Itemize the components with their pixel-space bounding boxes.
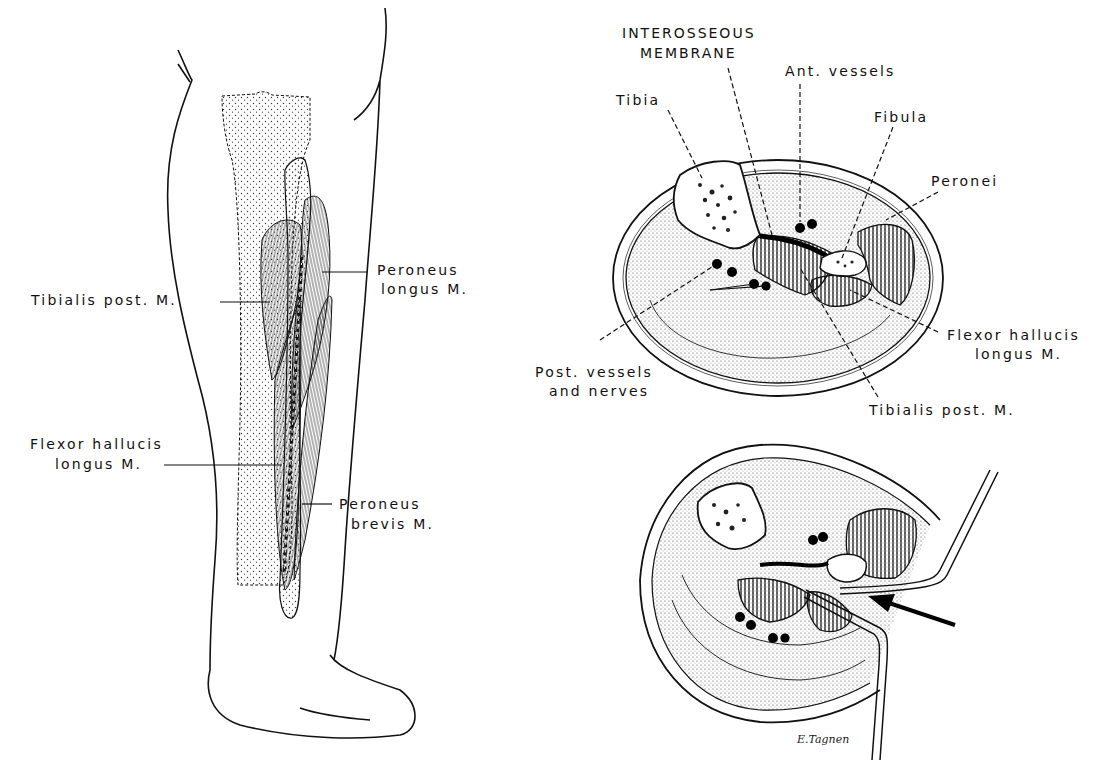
label-tibialis-post-left: Tibialis post. M. <box>31 292 177 309</box>
label-peroneus-brevis-1: Peroneus <box>339 496 421 513</box>
label-tibialis-post-right: Tibialis post. M. <box>869 402 1015 419</box>
cross-section-top <box>613 160 943 396</box>
label-peroneus-brevis-2: brevis M. <box>351 516 434 533</box>
label-fibula: Fibula <box>874 109 928 126</box>
label-peroneus-longus-1: Peroneus <box>377 262 459 279</box>
label-flexor-hallucis-right-1: Flexor hallucis <box>947 327 1080 344</box>
label-flexor-hallucis-left-2: longus M. <box>55 456 142 473</box>
label-post-vessels-2: and nerves <box>549 383 649 400</box>
label-peroneus-longus-2: longus M. <box>381 281 468 298</box>
label-peronei: Peronei <box>931 173 998 190</box>
label-interosseous-2: MEMBRANE <box>640 45 737 62</box>
label-tibia: Tibia <box>616 92 660 109</box>
label-ant-vessels: Ant. vessels <box>785 63 896 80</box>
label-flexor-hallucis-left-1: Flexor hallucis <box>30 436 163 453</box>
label-interosseous-1: INTEROSSEOUS <box>622 25 756 42</box>
label-flexor-hallucis-right-2: longus M. <box>975 346 1062 363</box>
label-post-vessels-1: Post. vessels <box>535 364 653 381</box>
cross-section-bottom <box>640 445 998 760</box>
artist-signature: E.Tagnen <box>797 733 849 746</box>
